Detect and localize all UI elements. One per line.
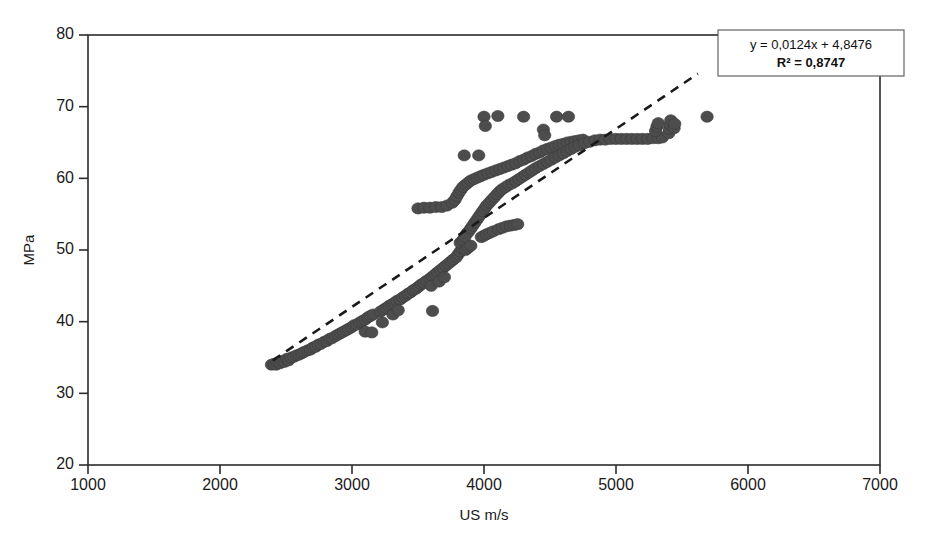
scatter-plot-svg: 20304050607080 1000200030004000500060007… xyxy=(0,0,926,550)
scatter-point xyxy=(465,240,477,251)
y-tick-label: 70 xyxy=(56,97,74,114)
y-tick-label: 80 xyxy=(56,25,74,42)
scatter-point xyxy=(479,120,491,131)
x-tick-label: 4000 xyxy=(466,476,502,493)
scatter-point xyxy=(473,150,485,161)
x-tick-label: 6000 xyxy=(730,476,766,493)
equation-annotation-box: y = 0,0124x + 4,8476 R² = 0,8747 xyxy=(718,30,904,76)
scatter-point xyxy=(550,111,562,122)
y-tick-label: 60 xyxy=(56,169,74,186)
y-tick-label: 30 xyxy=(56,384,74,401)
y-axis-title: MPa xyxy=(20,234,37,266)
scatter-point xyxy=(669,118,681,129)
x-tick-label: 5000 xyxy=(598,476,634,493)
y-tick-label: 20 xyxy=(56,455,74,472)
scatter-point xyxy=(366,327,378,338)
scatter-point xyxy=(426,305,438,316)
scatter-point xyxy=(539,130,551,141)
regression-equation-text: y = 0,0124x + 4,8476 xyxy=(750,37,872,52)
y-tick-label: 40 xyxy=(56,312,74,329)
scatter-point xyxy=(458,150,470,161)
scatter-point xyxy=(652,118,664,129)
scatter-point xyxy=(438,272,450,283)
x-tick-label: 2000 xyxy=(202,476,238,493)
scatter-point xyxy=(392,305,404,316)
x-axis-title: US m/s xyxy=(459,506,508,523)
figure-background xyxy=(0,0,926,550)
x-tick-label: 1000 xyxy=(70,476,106,493)
x-tick-label: 7000 xyxy=(862,476,898,493)
chart-figure: 20304050607080 1000200030004000500060007… xyxy=(0,0,926,550)
scatter-point xyxy=(701,111,713,122)
scatter-point xyxy=(492,110,504,121)
scatter-point xyxy=(376,317,388,328)
x-tick-label: 3000 xyxy=(334,476,370,493)
r-squared-text: R² = 0,8747 xyxy=(777,55,845,70)
scatter-point xyxy=(511,219,523,230)
y-tick-label: 50 xyxy=(56,240,74,257)
scatter-point xyxy=(562,111,574,122)
scatter-point xyxy=(517,111,529,122)
